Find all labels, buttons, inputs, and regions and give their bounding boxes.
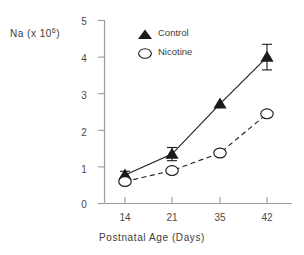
plot-area bbox=[0, 0, 304, 255]
series-layer bbox=[118, 44, 273, 186]
series-nicotine bbox=[119, 109, 273, 187]
series-line-nicotine bbox=[125, 114, 267, 182]
data-point-open-circle bbox=[214, 148, 226, 158]
y-axis-ticks bbox=[98, 21, 105, 204]
series-line-control bbox=[125, 57, 267, 175]
data-point-filled-triangle bbox=[260, 51, 273, 62]
series-control bbox=[118, 44, 273, 179]
data-point-open-circle bbox=[119, 177, 131, 187]
x-axis-ticks bbox=[125, 197, 267, 204]
chart-figure: Na (x 106) 5 4 3 2 1 0 14 21 35 42 Postn… bbox=[0, 0, 304, 255]
data-point-open-circle bbox=[166, 166, 178, 176]
data-point-open-circle bbox=[261, 109, 273, 119]
